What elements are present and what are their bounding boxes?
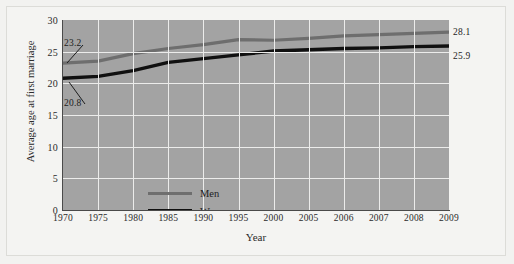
y-tick-20: 20 [28, 78, 58, 89]
x-tick-2009: 2009 [439, 213, 459, 223]
annotation-women-end: 25.9 [453, 51, 470, 61]
x-tick-2007: 2007 [369, 213, 389, 223]
x-tick-1995: 1995 [229, 213, 249, 223]
x-tick-1970: 1970 [53, 213, 73, 223]
gridline-x-1975 [98, 20, 99, 210]
gridline-x-2000 [274, 20, 275, 210]
x-tick-2000: 2000 [264, 213, 284, 223]
gridline-x-1985 [168, 20, 169, 210]
x-tick-2005: 2005 [299, 213, 319, 223]
y-tick-5: 5 [28, 173, 58, 184]
x-tick-1975: 1975 [88, 213, 108, 223]
x-tick-2006: 2006 [334, 213, 354, 223]
legend: Men Women [148, 184, 268, 210]
gridline-y-20 [63, 83, 449, 84]
gridline-x-2005 [309, 20, 310, 210]
x-tick-1990: 1990 [193, 213, 213, 223]
y-axis-ticks: 0 5 10 15 20 25 30 [24, 0, 58, 264]
gridline-y-10 [63, 147, 449, 148]
annotation-women-start: 20.8 [64, 98, 81, 108]
y-tick-10: 10 [28, 141, 58, 152]
x-tick-2008: 2008 [404, 213, 424, 223]
x-tick-1985: 1985 [158, 213, 178, 223]
x-axis-line [62, 210, 450, 211]
annotation-men-start: 23.2 [64, 38, 81, 48]
legend-label-men: Men [200, 188, 219, 199]
annotation-men-end: 28.1 [453, 27, 470, 37]
gridline-y-5 [63, 178, 449, 179]
gridline-x-1980 [133, 20, 134, 210]
gridline-y-25 [63, 52, 449, 53]
y-tick-25: 25 [28, 46, 58, 57]
y-axis-line [62, 20, 63, 211]
y-tick-30: 30 [28, 15, 58, 26]
gridline-x-2006 [344, 20, 345, 210]
y-tick-15: 15 [28, 110, 58, 121]
legend-item-men: Men [148, 184, 268, 202]
gridline-x-1995 [239, 20, 240, 210]
x-axis-title: Year [63, 231, 449, 243]
gridline-x-2008 [414, 20, 415, 210]
legend-swatch-men-icon [148, 192, 192, 195]
plot-area: Men Women [63, 20, 449, 210]
x-tick-1980: 1980 [123, 213, 143, 223]
legend-item-women: Women [148, 202, 268, 210]
x-axis-ticks: 1970 1975 1980 1985 1990 1995 2000 2005 … [63, 213, 449, 231]
gridline-x-1990 [203, 20, 204, 210]
gridline-y-15 [63, 115, 449, 116]
gridline-x-2007 [379, 20, 380, 210]
figure-container: Average age at first marriage 0 5 10 15 … [0, 0, 514, 264]
